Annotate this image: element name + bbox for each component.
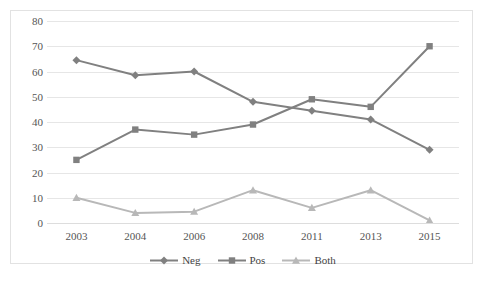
y-axis: 80706050403020100: [11, 21, 43, 223]
y-tick-label-40: 40: [13, 117, 43, 128]
data-point-neg-2015: [426, 146, 434, 154]
series-plot: [47, 21, 459, 223]
data-point-pos-2015: [426, 43, 432, 49]
data-point-pos-2004: [132, 126, 138, 132]
data-point-pos-2006: [191, 131, 197, 137]
x-tick-label-2011: 2011: [284, 229, 340, 243]
data-point-both-2013: [367, 186, 375, 193]
data-point-pos-2011: [309, 96, 315, 102]
y-tick-label-60: 60: [13, 67, 43, 78]
legend-marker-diamond-icon: [149, 255, 179, 266]
data-point-pos-2008: [250, 121, 256, 127]
data-point-both-2003: [72, 194, 80, 201]
legend-item-neg[interactable]: Neg: [149, 255, 200, 266]
data-point-neg-2006: [190, 68, 198, 76]
data-point-neg-2013: [367, 115, 375, 123]
x-tick-label-2006: 2006: [166, 229, 222, 243]
legend-marker-glyph: [160, 256, 168, 264]
x-tick-label-2013: 2013: [343, 229, 399, 243]
x-tick-label-2015: 2015: [402, 229, 458, 243]
cropped-title-remnant: [0, 0, 493, 9]
gridline-0: [47, 223, 459, 224]
x-tick-label-2004: 2004: [107, 229, 163, 243]
data-point-neg-2003: [72, 56, 80, 64]
data-point-both-2008: [249, 186, 257, 193]
y-tick-label-70: 70: [13, 41, 43, 52]
chart-legend: NegPosBoth: [11, 251, 474, 269]
data-point-pos-2003: [73, 157, 79, 163]
y-tick-label-20: 20: [13, 168, 43, 179]
legend-item-both[interactable]: Both: [281, 255, 335, 266]
y-tick-label-0: 0: [13, 218, 43, 229]
y-tick-label-80: 80: [13, 16, 43, 27]
legend-label-pos: Pos: [250, 255, 266, 266]
x-tick-label-2008: 2008: [225, 229, 281, 243]
chart-frame: 80706050403020100 2003200420062008201120…: [10, 10, 473, 264]
series-both: [72, 186, 433, 223]
series-line-both: [76, 190, 429, 220]
chart-plot-wrapper: 80706050403020100 2003200420062008201120…: [11, 11, 474, 265]
legend-marker-triangle-icon: [281, 255, 311, 266]
data-point-neg-2004: [131, 71, 139, 79]
y-tick-label-10: 10: [13, 193, 43, 204]
y-tick-label-30: 30: [13, 142, 43, 153]
legend-marker-glyph: [228, 257, 234, 263]
x-tick-label-2003: 2003: [48, 229, 104, 243]
x-axis: 2003200420062008201120132015: [47, 229, 459, 245]
data-point-neg-2011: [308, 107, 316, 115]
legend-marker-square-icon: [217, 255, 247, 266]
data-point-pos-2013: [368, 104, 374, 110]
data-point-neg-2008: [249, 98, 257, 106]
series-neg: [72, 56, 433, 154]
legend-item-pos[interactable]: Pos: [217, 255, 266, 266]
legend-label-neg: Neg: [182, 255, 200, 266]
legend-label-both: Both: [314, 255, 335, 266]
y-tick-label-50: 50: [13, 92, 43, 103]
